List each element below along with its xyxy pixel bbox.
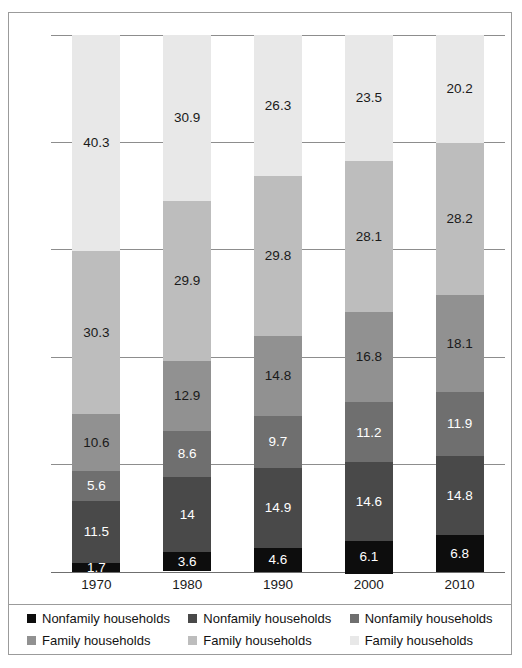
- bar-segment-2000-s3[interactable]: 16.8: [345, 312, 393, 402]
- legend-nonfamily-2[interactable]: Nonfamily households: [188, 611, 349, 626]
- bar-segment-2010-s3[interactable]: 18.1: [436, 295, 484, 392]
- bar-segment-1970-s2[interactable]: 5.6: [72, 471, 120, 501]
- bar-segment-value: 30.3: [83, 326, 109, 340]
- bar-segment-2000-s1[interactable]: 14.6: [345, 462, 393, 540]
- bar-segment-value: 9.7: [269, 435, 288, 449]
- bar-segment-value: 26.3: [265, 99, 291, 113]
- bar-2000[interactable]: 23.528.116.811.214.66.1: [345, 35, 393, 572]
- bar-segment-value: 40.3: [83, 136, 109, 150]
- legend-label: Family households: [365, 633, 473, 648]
- bar-segment-value: 14.6: [356, 495, 382, 509]
- bar-segment-value: 14: [180, 508, 195, 522]
- bar-segment-1990-s4[interactable]: 29.8: [254, 176, 302, 336]
- bar-segment-value: 20.2: [446, 82, 472, 96]
- bar-segment-value: 11.9: [447, 417, 472, 431]
- bar-2010[interactable]: 20.228.218.111.914.86.8: [436, 35, 484, 572]
- bar-segment-value: 30.9: [174, 111, 200, 125]
- bar-1990[interactable]: 26.329.814.89.714.94.6: [254, 35, 302, 572]
- bar-segment-1990-s1[interactable]: 14.9: [254, 468, 302, 548]
- bar-segment-2000-s5[interactable]: 23.5: [345, 35, 393, 161]
- bar-segment-2000-s0[interactable]: 6.1: [345, 541, 393, 574]
- bar-segment-1970-s4[interactable]: 30.3: [72, 251, 120, 414]
- bar-segment-value: 8.6: [178, 447, 197, 461]
- x-tick-label-1990: 1990: [238, 577, 318, 592]
- bar-segment-value: 11.5: [84, 525, 109, 539]
- bar-segment-1970-s5[interactable]: 40.3: [72, 35, 120, 251]
- bar-segment-value: 6.1: [359, 550, 378, 564]
- bar-segment-value: 5.6: [87, 479, 106, 493]
- bar-segment-1990-s0[interactable]: 4.6: [254, 548, 302, 573]
- legend-swatch-icon: [188, 636, 197, 645]
- x-tick-label-1970: 1970: [56, 577, 136, 592]
- bar-segment-2010-s0[interactable]: 6.8: [436, 535, 484, 572]
- legend-grid: Nonfamily householdsNonfamily households…: [9, 605, 511, 654]
- bar-segment-value: 29.9: [174, 274, 200, 288]
- legend-swatch-icon: [350, 614, 359, 623]
- bar-segment-1980-s0[interactable]: 3.6: [163, 552, 211, 571]
- bar-segment-value: 1.7: [87, 563, 106, 572]
- legend-label: Nonfamily households: [42, 611, 170, 626]
- bar-segment-value: 23.5: [356, 91, 382, 105]
- bar-segment-value: 16.8: [356, 350, 382, 364]
- bar-segment-value: 4.6: [269, 553, 288, 567]
- bar-segment-value: 29.8: [265, 249, 291, 263]
- bar-segment-1970-s1[interactable]: 11.5: [72, 501, 120, 563]
- bar-1980[interactable]: 30.929.912.98.6143.6: [163, 35, 211, 572]
- bar-segment-1970-s3[interactable]: 10.6: [72, 414, 120, 471]
- bar-segment-value: 14.8: [446, 489, 472, 503]
- bar-segment-value: 11.2: [356, 426, 381, 440]
- bar-segment-1990-s5[interactable]: 26.3: [254, 35, 302, 176]
- legend-label: Family households: [203, 633, 311, 648]
- legend-swatch-icon: [188, 614, 197, 623]
- chart-plot-frame: 020406080100 40.330.310.65.611.51.730.92…: [8, 12, 512, 655]
- bar-segment-value: 28.1: [356, 230, 382, 244]
- legend-label: Family households: [42, 633, 150, 648]
- x-tick-label-2010: 2010: [420, 577, 500, 592]
- legend-swatch-icon: [27, 614, 36, 623]
- legend-swatch-icon: [27, 636, 36, 645]
- bar-1970[interactable]: 40.330.310.65.611.51.7: [72, 35, 120, 572]
- x-axis-labels: 19701980199020002010: [51, 577, 505, 597]
- x-tick-label-1980: 1980: [147, 577, 227, 592]
- bar-segment-value: 10.6: [83, 436, 109, 450]
- bar-segment-2010-s1[interactable]: 14.8: [436, 456, 484, 535]
- bar-segment-value: 14.8: [265, 369, 291, 383]
- legend-nonfamily-3[interactable]: Nonfamily households: [350, 611, 511, 626]
- bar-segment-value: 6.8: [450, 547, 469, 561]
- top-caption-sliver: [0, 0, 522, 9]
- legend-family-3[interactable]: Family households: [350, 633, 511, 648]
- chart-figure: 020406080100 40.330.310.65.611.51.730.92…: [0, 0, 522, 668]
- bar-segment-value: 18.1: [446, 337, 472, 351]
- legend-nonfamily-1[interactable]: Nonfamily households: [27, 611, 188, 626]
- bar-segment-1980-s1[interactable]: 14: [163, 477, 211, 552]
- legend: Nonfamily householdsNonfamily households…: [8, 604, 512, 655]
- bar-segment-value: 14.9: [265, 501, 291, 515]
- legend-label: Nonfamily households: [365, 611, 493, 626]
- bar-segment-1970-s0[interactable]: 1.7: [72, 563, 120, 572]
- bar-segment-1980-s3[interactable]: 12.9: [163, 361, 211, 430]
- bar-segment-value: 12.9: [174, 389, 200, 403]
- bar-segment-2000-s2[interactable]: 11.2: [345, 402, 393, 462]
- legend-family-1[interactable]: Family households: [27, 633, 188, 648]
- bar-segment-value: 3.6: [178, 555, 197, 569]
- bar-segment-1990-s2[interactable]: 9.7: [254, 416, 302, 468]
- bar-segment-1980-s4[interactable]: 29.9: [163, 201, 211, 362]
- bar-segment-1980-s2[interactable]: 8.6: [163, 431, 211, 477]
- bar-segment-2010-s2[interactable]: 11.9: [436, 392, 484, 456]
- legend-swatch-icon: [350, 636, 359, 645]
- bar-segment-2010-s5[interactable]: 20.2: [436, 35, 484, 143]
- x-tick-label-2000: 2000: [329, 577, 409, 592]
- bar-segment-1990-s3[interactable]: 14.8: [254, 336, 302, 415]
- legend-family-2[interactable]: Family households: [188, 633, 349, 648]
- bar-segment-value: 28.2: [446, 212, 472, 226]
- plot-area: 40.330.310.65.611.51.730.929.912.98.6143…: [51, 35, 505, 572]
- bar-segment-2010-s4[interactable]: 28.2: [436, 143, 484, 294]
- bar-segment-2000-s4[interactable]: 28.1: [345, 161, 393, 312]
- bar-segment-1980-s5[interactable]: 30.9: [163, 35, 211, 201]
- legend-label: Nonfamily households: [203, 611, 331, 626]
